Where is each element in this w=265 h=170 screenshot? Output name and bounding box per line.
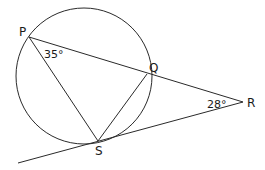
tangent-line-RS (18, 102, 243, 163)
point-label-Q: Q (149, 61, 158, 75)
line-PQR (29, 37, 243, 102)
point-label-P: P (19, 25, 26, 39)
point-label-S: S (95, 144, 103, 158)
angle-label-R: 28° (207, 98, 227, 111)
diagram-canvas: P Q R S 35° 28° (0, 0, 265, 170)
geometry-diagram: P Q R S 35° 28° (0, 0, 265, 170)
chord-QS (98, 74, 147, 141)
angle-label-P: 35° (44, 48, 64, 61)
point-label-R: R (247, 96, 255, 110)
circle (16, 8, 152, 144)
chord-PS (29, 37, 98, 141)
